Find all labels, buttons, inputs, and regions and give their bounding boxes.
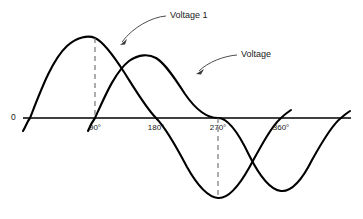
- sine-wave-figure: 0 90° 180° 270° 360° Voltage 1 Voltage: [0, 0, 363, 219]
- plot-canvas: [0, 0, 363, 219]
- callout-leader-voltage-1: [122, 16, 166, 42]
- axis-tick-label-90: 90°: [89, 124, 101, 132]
- axis-tick-label-270: 270°: [210, 124, 227, 132]
- axis-tick-label-180: 180°: [148, 124, 165, 132]
- series-label-voltage-1: Voltage 1: [170, 11, 208, 20]
- axis-origin-label: 0: [11, 113, 16, 122]
- series-label-voltage: Voltage: [241, 50, 271, 59]
- axis-tick-label-360: 360°: [273, 124, 290, 132]
- callout-leader-voltage: [199, 55, 237, 71]
